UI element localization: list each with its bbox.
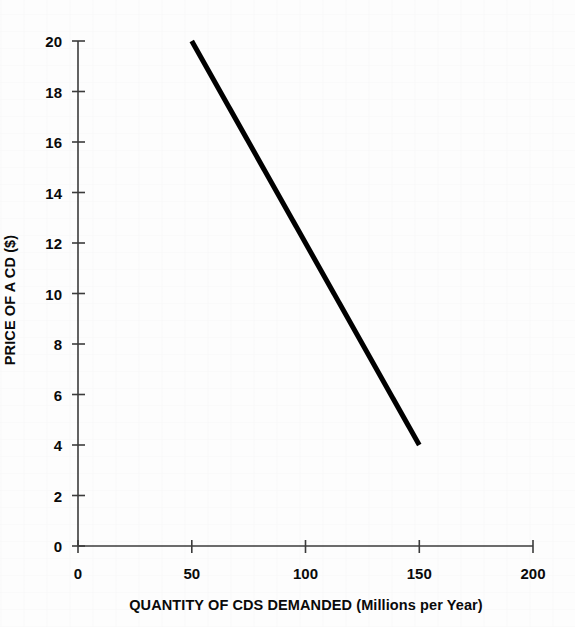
- x-tick-label-0: 0: [74, 566, 82, 581]
- chart-canvas: [0, 0, 575, 627]
- x-tick-label-50: 50: [183, 566, 200, 581]
- y-tick-label-10: 10: [18, 286, 62, 301]
- x-tick-label-200: 200: [520, 566, 545, 581]
- y-tick-label-4: 4: [18, 438, 62, 453]
- demand-curve-chart: 20 18 16 14 12 10 8 6 4 2 0 0 50 100 150…: [0, 0, 575, 627]
- demand-curve-line: [192, 41, 420, 445]
- y-tick-label-0: 0: [18, 539, 62, 554]
- y-tick-label-12: 12: [18, 236, 62, 251]
- x-axis-title: QUANTITY OF CDS DEMANDED (Millions per Y…: [129, 597, 483, 613]
- y-tick-label-14: 14: [18, 185, 62, 200]
- y-tick-label-20: 20: [18, 34, 62, 49]
- y-axis-title: PRICE OF A CD ($): [2, 235, 18, 365]
- y-tick-label-18: 18: [18, 84, 62, 99]
- x-tick-label-100: 100: [293, 566, 318, 581]
- y-tick-label-8: 8: [18, 337, 62, 352]
- x-tick-label-150: 150: [407, 566, 432, 581]
- y-tick-label-6: 6: [18, 387, 62, 402]
- y-tick-label-16: 16: [18, 135, 62, 150]
- y-tick-label-2: 2: [18, 488, 62, 503]
